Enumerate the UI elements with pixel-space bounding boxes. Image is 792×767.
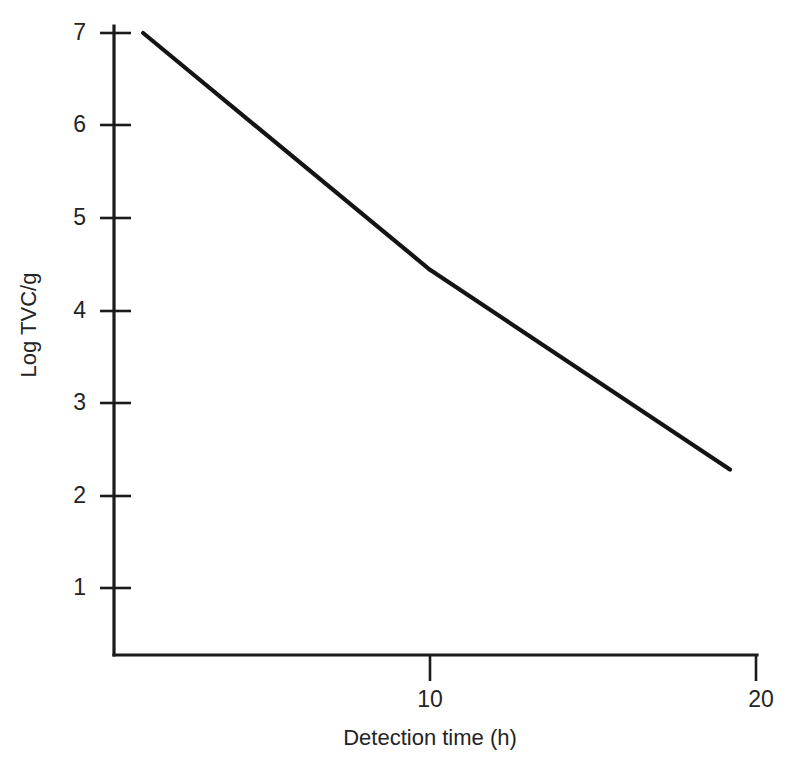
y-axis-title: Log TVC/g xyxy=(16,273,41,378)
x-tick-label-20: 20 xyxy=(748,686,774,712)
x-axis-title: Detection time (h) xyxy=(343,725,517,750)
y-tick-label-1: 1 xyxy=(73,574,86,600)
y-tick-label-5: 5 xyxy=(73,204,86,230)
chart-figure: 7 6 5 4 3 2 1 10 20 Log TVC/g Detection … xyxy=(0,0,792,767)
y-tick-label-2: 2 xyxy=(73,482,86,508)
y-tick-label-6: 6 xyxy=(73,111,86,137)
y-tick-label-7: 7 xyxy=(73,19,86,45)
data-series-line xyxy=(143,33,730,470)
y-tick-label-4: 4 xyxy=(73,297,86,323)
line-chart: 7 6 5 4 3 2 1 10 20 Log TVC/g Detection … xyxy=(0,0,792,767)
y-tick-label-3: 3 xyxy=(73,389,86,415)
x-tick-label-10: 10 xyxy=(417,686,443,712)
